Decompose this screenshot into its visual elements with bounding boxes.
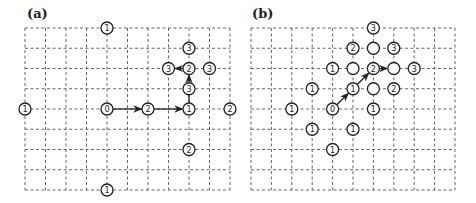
grid-node: 0 — [327, 103, 339, 115]
grid-node: 2 — [142, 103, 154, 115]
node-label: 1 — [330, 146, 335, 155]
panel-b: (b) 323123112101111 — [251, 6, 455, 190]
node-label: 2 — [186, 65, 191, 74]
grid-node: 1 — [101, 184, 113, 196]
node-circle — [367, 83, 379, 95]
grid-node: 1 — [347, 123, 359, 135]
grid-node: 1 — [327, 144, 339, 156]
node-label: 2 — [227, 105, 232, 114]
node-label: 3 — [207, 65, 212, 74]
grid-node: 3 — [204, 63, 216, 75]
node-label: 1 — [350, 85, 355, 94]
node-label: 1 — [186, 105, 191, 114]
grid-node: 2 — [388, 83, 400, 95]
grid-node: 2 — [367, 63, 379, 75]
panel-a-label: (a) — [27, 6, 48, 21]
grid-node: 3 — [408, 63, 420, 75]
node-label: 3 — [186, 85, 191, 94]
grid-node: 0 — [101, 103, 113, 115]
grid-node: 2 — [224, 103, 236, 115]
node-label: 2 — [391, 85, 396, 94]
node-label: 1 — [22, 105, 27, 114]
panel-a: (a) 1332331021221 — [19, 6, 236, 196]
grid-node — [367, 83, 379, 95]
grid-node: 1 — [347, 83, 359, 95]
panel-b-label: (b) — [252, 6, 273, 21]
node-circle — [367, 42, 379, 54]
node-label: 2 — [145, 105, 150, 114]
path-arrow — [337, 93, 349, 104]
grid-node: 1 — [367, 103, 379, 115]
grid-node: 3 — [367, 22, 379, 34]
grid-node — [347, 63, 359, 75]
node-label: 3 — [186, 44, 191, 53]
panel-b-nodes: 323123112101111 — [286, 22, 420, 156]
node-label: 1 — [104, 24, 109, 33]
grid-node: 3 — [163, 63, 175, 75]
grid-node: 3 — [183, 42, 195, 54]
path-arrow — [357, 73, 369, 84]
node-label: 1 — [350, 125, 355, 134]
node-label: 3 — [391, 44, 396, 53]
node-label: 1 — [371, 105, 376, 114]
node-label: 1 — [310, 85, 315, 94]
node-label: 0 — [330, 105, 335, 114]
grid-node: 2 — [183, 63, 195, 75]
node-label: 2 — [350, 44, 355, 53]
node-label: 3 — [371, 24, 376, 33]
grid-node: 1 — [306, 83, 318, 95]
node-label: 0 — [104, 105, 109, 114]
grid-node — [388, 63, 400, 75]
node-circle — [347, 63, 359, 75]
node-label: 2 — [186, 146, 191, 155]
grid-node: 1 — [101, 22, 113, 34]
grid-node: 1 — [327, 63, 339, 75]
grid-node: 2 — [183, 144, 195, 156]
grid-node: 1 — [183, 103, 195, 115]
grid-node: 3 — [183, 83, 195, 95]
node-label: 1 — [330, 65, 335, 74]
grid-node — [367, 42, 379, 54]
node-label: 1 — [310, 125, 315, 134]
node-label: 1 — [104, 186, 109, 195]
grid-path-figure: (a) 1332331021221 (b) 323123112101111 — [0, 0, 476, 203]
node-label: 3 — [412, 65, 417, 74]
node-label: 2 — [371, 65, 376, 74]
node-label: 1 — [289, 105, 294, 114]
grid-node: 2 — [347, 42, 359, 54]
node-circle — [388, 63, 400, 75]
grid-node: 1 — [19, 103, 31, 115]
panel-b-arrows — [337, 69, 387, 105]
grid-node: 1 — [306, 123, 318, 135]
node-label: 3 — [166, 65, 171, 74]
grid-node: 1 — [286, 103, 298, 115]
grid-node: 3 — [388, 42, 400, 54]
